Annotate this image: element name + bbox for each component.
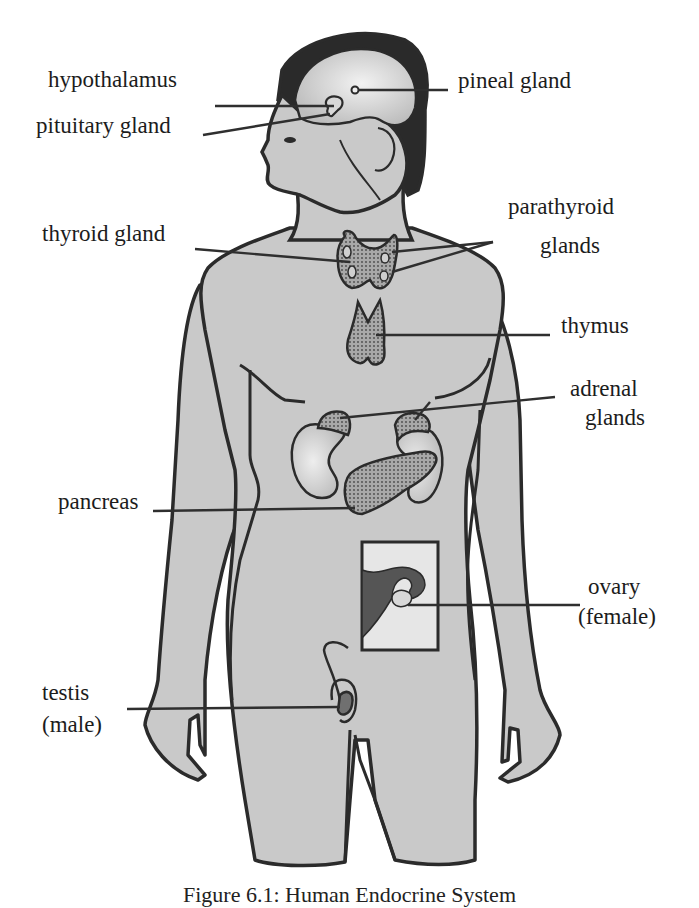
figure-caption: Figure 6.1: Human Endocrine System [0, 882, 699, 908]
label-thyroid-gland: thyroid gland [42, 221, 165, 247]
label-ovary-line2: (female) [578, 604, 656, 630]
ovary-inset [362, 542, 438, 650]
head [262, 34, 427, 213]
label-testis-line2: (male) [42, 712, 102, 738]
label-pituitary-gland: pituitary gland [36, 113, 171, 139]
label-testis-line1: testis [42, 680, 89, 706]
label-parathyroid-line1: parathyroid [508, 194, 614, 220]
label-pancreas: pancreas [58, 489, 138, 515]
label-adrenal-line1: adrenal [570, 376, 638, 402]
label-pineal-gland: pineal gland [458, 68, 571, 94]
label-parathyroid-line2: glands [540, 233, 600, 259]
label-hypothalamus: hypothalamus [48, 67, 177, 93]
label-ovary-line1: ovary [588, 574, 640, 600]
label-adrenal-line2: glands [585, 405, 645, 431]
label-thymus: thymus [561, 313, 629, 339]
